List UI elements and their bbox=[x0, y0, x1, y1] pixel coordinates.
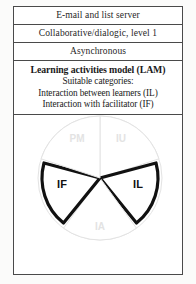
pie-diagram-area: IUILIAIFPM bbox=[14, 115, 182, 272]
pie-label-iu: IU bbox=[116, 133, 126, 144]
lam-category-if: Interaction with facilitator (IF) bbox=[16, 99, 180, 110]
lam-category-il: Interaction between learners (IL) bbox=[16, 88, 180, 99]
pie-label-il: IL bbox=[133, 178, 143, 190]
lam-block: Learning activities model (LAM) Suitable… bbox=[14, 61, 182, 115]
diagram-frame: E-mail and list server Collaborative/dia… bbox=[13, 6, 183, 275]
table-row: Collaborative/dialogic, level 1 bbox=[14, 25, 182, 43]
pie-label-pm: PM bbox=[70, 133, 85, 144]
row-label-medium: E-mail and list server bbox=[56, 10, 140, 20]
pie-chart: IUILIAIFPM bbox=[14, 115, 182, 272]
pie-label-ia: IA bbox=[95, 221, 105, 232]
lam-title: Learning activities model (LAM) bbox=[16, 64, 180, 76]
row-label-mode: Collaborative/dialogic, level 1 bbox=[39, 28, 157, 38]
row-label-timing: Asynchronous bbox=[70, 46, 126, 56]
lam-subtitle: Suitable categories: bbox=[16, 76, 180, 87]
table-row: E-mail and list server bbox=[14, 7, 182, 25]
table-row: Asynchronous bbox=[14, 43, 182, 61]
figure-canvas: E-mail and list server Collaborative/dia… bbox=[0, 0, 196, 284]
pie-label-if: IF bbox=[57, 178, 67, 190]
